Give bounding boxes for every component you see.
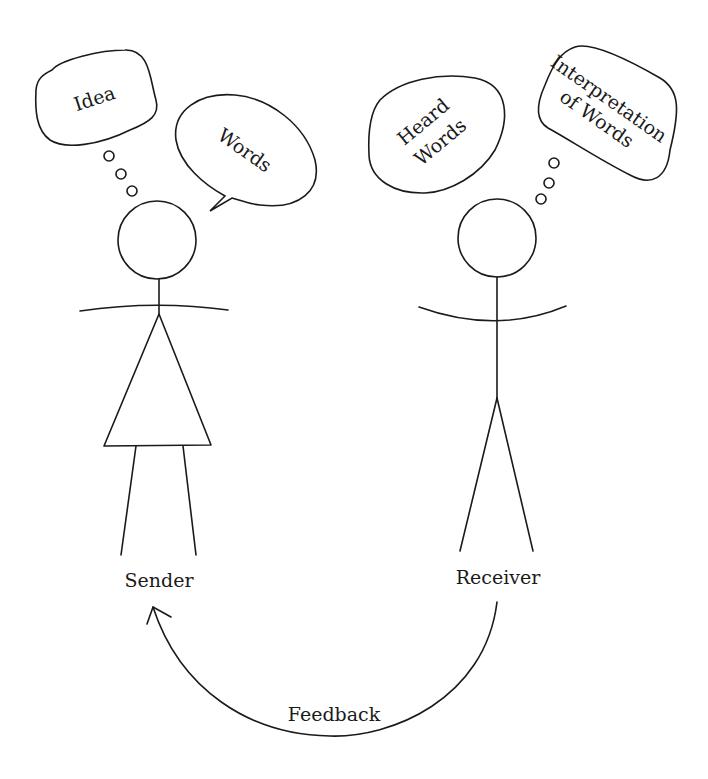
receiver-label: Receiver — [456, 566, 541, 588]
receiver-figure: Heard Words Interpretation of Words Rece… — [369, 46, 677, 588]
heard-words-bubble: Heard Words — [369, 76, 505, 193]
sender-arms — [80, 305, 228, 311]
idea-thought-bubble: Idea — [36, 50, 157, 196]
receiver-head — [458, 199, 536, 277]
communication-diagram: Idea Words Sender Heard Words — [0, 0, 708, 779]
feedback-label: Feedback — [288, 703, 381, 725]
sender-figure: Idea Words Sender — [36, 50, 317, 591]
feedback-arrow: Feedback — [147, 602, 497, 736]
thought-dot — [536, 194, 546, 204]
receiver-arms — [419, 306, 566, 321]
thought-dot — [116, 169, 126, 179]
thought-dot — [544, 178, 554, 188]
thought-dot — [127, 186, 137, 196]
words-speech-bubble: Words — [176, 95, 317, 211]
interpretation-thought-bubble: Interpretation of Words — [536, 46, 677, 204]
sender-label: Sender — [125, 569, 195, 591]
thought-dot — [104, 151, 114, 161]
sender-dress — [104, 314, 211, 446]
sender-head — [118, 201, 196, 279]
thought-dot — [549, 158, 559, 168]
